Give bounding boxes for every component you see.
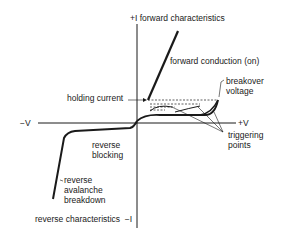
forward-characteristics-caption: forward characteristics	[140, 13, 225, 23]
y-positive-label: +I forward characteristics	[130, 13, 225, 23]
triggering-label-2: points	[228, 140, 251, 150]
avalanche-label-2: avalanche	[64, 185, 103, 195]
holding-current-label: holding current	[67, 93, 123, 103]
trigger-pointer-3	[214, 112, 223, 132]
trigger-pointer-1	[172, 107, 223, 132]
x-negative-label: −V	[20, 118, 31, 128]
reverse-blocking-label-2: blocking	[92, 150, 123, 160]
plus-i: +I	[130, 13, 137, 23]
holding-arrowhead	[143, 98, 147, 102]
reverse-blocking-label-1: reverse	[92, 140, 120, 150]
avalanche-label-1: reverse	[64, 175, 92, 185]
y-negative-label: reverse characteristics −I	[35, 214, 132, 224]
avalanche-pointer	[60, 180, 63, 181]
minus-i: −I	[125, 214, 132, 224]
breakover-label-2: voltage	[226, 86, 253, 96]
forward-conduction-label: forward conduction (on)	[170, 56, 259, 66]
reverse-characteristics-caption: reverse characteristics	[35, 214, 120, 224]
x-positive-label: +V	[238, 118, 249, 128]
trigger-curve-2	[175, 106, 200, 112]
forward-blocking-curve	[137, 100, 218, 121]
breakover-label-1: breakover	[226, 76, 264, 86]
breakover-pointer	[219, 80, 224, 97]
avalanche-label-3: breakdown	[64, 195, 106, 205]
triggering-label-1: triggering	[228, 130, 263, 140]
